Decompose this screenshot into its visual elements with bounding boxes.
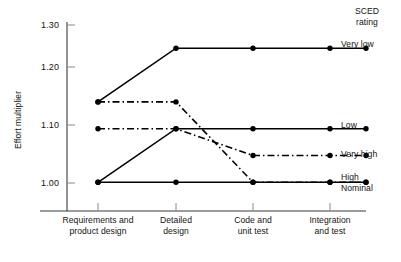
data-point bbox=[173, 180, 178, 185]
legend-title-line1: SCED bbox=[344, 6, 390, 17]
data-point bbox=[173, 46, 178, 51]
series-line bbox=[98, 102, 366, 182]
series-very-low bbox=[95, 46, 368, 105]
legend-title: SCED rating bbox=[344, 6, 390, 27]
legend-title-line2: rating bbox=[344, 17, 390, 28]
series-layer bbox=[95, 46, 368, 186]
legend-label-nominal: Nominal bbox=[341, 183, 373, 194]
series-line bbox=[98, 48, 366, 102]
data-point bbox=[250, 126, 255, 131]
data-point bbox=[327, 46, 332, 51]
data-point bbox=[327, 153, 332, 158]
series-high bbox=[95, 99, 368, 185]
x-tick-label-3-line2: and test bbox=[282, 226, 378, 237]
legend-label-high: High bbox=[341, 172, 359, 183]
data-point bbox=[173, 99, 178, 104]
chart-figure: Effort multiplier 1.30 1.20 1.10 1.00 Re… bbox=[0, 0, 401, 262]
data-point bbox=[95, 126, 100, 131]
data-point bbox=[250, 153, 255, 158]
series-line bbox=[98, 129, 366, 156]
legend-label-low: Low bbox=[341, 120, 357, 131]
data-point bbox=[95, 180, 100, 185]
x-tick-label-3: Integration and test bbox=[282, 215, 378, 236]
legend-label-very-high: Very high bbox=[341, 149, 377, 160]
data-point bbox=[173, 126, 178, 131]
series-end-marker bbox=[363, 126, 368, 131]
data-point bbox=[327, 126, 332, 131]
data-point bbox=[250, 180, 255, 185]
legend-label-very-low: Very low bbox=[341, 39, 374, 50]
series-very-high bbox=[95, 126, 368, 158]
data-point bbox=[95, 99, 100, 104]
data-point bbox=[327, 180, 332, 185]
series-nominal bbox=[95, 180, 368, 185]
x-tick-label-3-line1: Integration bbox=[282, 215, 378, 226]
data-point bbox=[250, 46, 255, 51]
